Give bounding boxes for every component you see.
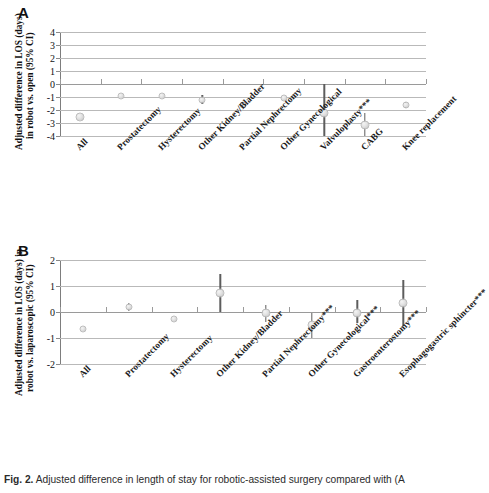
panel-b-x-label: Hysterectomy <box>168 333 214 379</box>
figure-caption-prefix: Fig. 2. <box>4 474 33 485</box>
panel-a: A Adjusted difference in LOS (days) in r… <box>0 0 435 240</box>
figure-caption: Fig. 2. Adjusted difference in length of… <box>4 474 435 485</box>
panel-a-x-label: Hysterectomy <box>156 106 202 152</box>
panel-b-x-label: Prostatectomy <box>123 331 171 379</box>
panel-b-x-label: Esophagogastric sphincter*** <box>397 287 489 379</box>
panel-a-x-label: CABG <box>359 126 385 152</box>
panel-a-x-label: Knee replacement <box>400 94 458 152</box>
panel-b-x-label: All <box>77 363 93 379</box>
panel-b: B Adjusted difference in LOS (days) in r… <box>0 240 435 472</box>
panel-b-x-axis-labels: AllProstatectomyHysterectomyOther Kidney… <box>0 240 435 472</box>
panel-a-x-axis-labels: AllProstatectomyHysterectomyOther Kidney… <box>0 0 435 240</box>
panel-a-x-label: All <box>74 136 90 152</box>
figure-caption-text: Adjusted difference in length of stay fo… <box>36 474 405 485</box>
panel-a-x-label: Other Kidney/Bladder <box>196 81 267 152</box>
